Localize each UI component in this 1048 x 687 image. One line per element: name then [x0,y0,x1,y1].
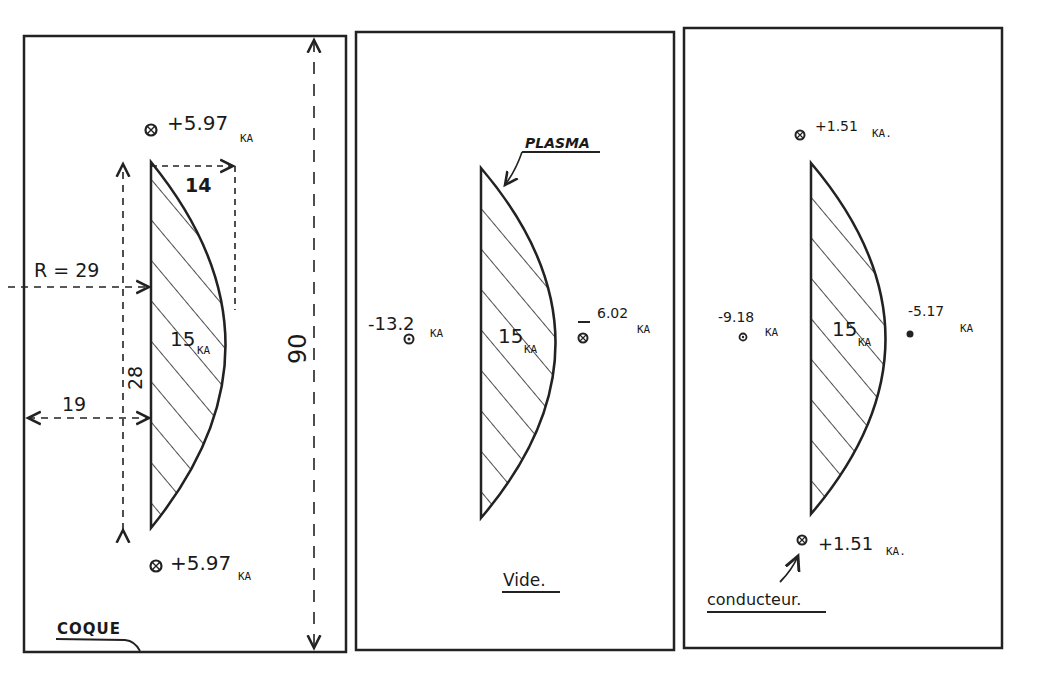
plasma-current-value: 15 [832,317,857,341]
plasma-current-unit: KA [858,336,872,349]
conductor-right-value: -5.17 [908,303,944,319]
panel-coque: +5.97 KA +5.97 KA 15 KA 14 R = 29 19 28 … [8,36,346,652]
plasma-current-value: 15 [170,327,195,351]
conductor-right-value: 6.02 [597,305,628,321]
conductor-bottom: +1.51 KA. [798,533,906,558]
conductor-top: +1.51 KA. [796,118,892,140]
conductor-top-unit: KA. [872,127,892,140]
width-label: 14 [185,174,211,196]
height-label: 28 [124,366,146,390]
conductor-right-unit: KA [637,323,651,336]
conductor-right: -5.17 KA [907,303,974,338]
coque-caption-pointer [56,639,140,651]
plasma-label-pointer [505,152,522,185]
panel-vide: PLASMA -13.2 KA 6.02 KA 15 KA Vide. [356,32,674,650]
conductor-bottom-value: +5.97 [170,551,231,575]
diagram-canvas: +5.97 KA +5.97 KA 15 KA 14 R = 29 19 28 … [0,0,1048,687]
panel-conducteur: +1.51 KA. -9.18 KA -5.17 KA +1.51 KA. 15… [684,28,1002,648]
conductor-right-unit: KA [960,322,974,335]
conductor-bottom-unit: KA [238,570,252,583]
conductor-top-value: +1.51 [815,118,858,134]
conductor-bottom: +5.97 KA [151,551,252,583]
plasma-current-unit: KA [197,344,211,357]
conductor-left: -13.2 KA [368,313,444,344]
conductor-left: -9.18 KA [718,309,779,341]
plasma-label: PLASMA [525,135,590,151]
conductor-left-value: -13.2 [368,313,415,334]
conductor-left-unit: KA [765,326,779,339]
conductor-left-value: -9.18 [718,309,754,325]
total-height-label: 90 [284,333,312,364]
conductor-right: 6.02 KA [578,305,651,343]
conducteur-caption: conducteur. [707,590,801,609]
vide-caption: Vide. [503,570,546,590]
conductor-top-value: +5.97 [167,111,228,135]
conductor-bottom-value: +1.51 [818,533,873,554]
coque-caption: COQUE [57,620,121,638]
plasma-current-value: 15 [498,324,523,348]
radius-label: R = 29 [34,259,99,281]
offset-label: 19 [62,393,86,415]
conducteur-caption-pointer [780,556,798,582]
plasma-current-unit: KA [524,343,538,356]
conductor-bottom-unit: KA. [886,545,906,558]
conductor-dot-icon [907,331,914,338]
conductor-top: +5.97 KA [146,111,254,145]
conductor-top-unit: KA [240,132,254,145]
conductor-left-unit: KA [430,327,444,340]
